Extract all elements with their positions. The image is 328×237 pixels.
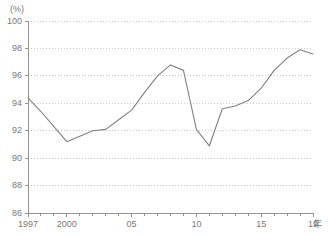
- gridlines-group: [28, 21, 313, 186]
- x-tick-marks-group: [28, 213, 313, 217]
- line-chart: (%) 86889092949698100 1997200005101519 年: [0, 0, 328, 237]
- chart-plot-area: [0, 0, 328, 237]
- data-series-group: [28, 50, 313, 146]
- y-tick-label: 100: [0, 17, 22, 26]
- x-tick-label: 2000: [47, 220, 87, 229]
- axes-group: [28, 21, 313, 213]
- y-tick-label: 96: [0, 71, 22, 80]
- x-axis-unit-label: 年: [313, 220, 322, 229]
- y-tick-label: 90: [0, 154, 22, 163]
- data-line-series-1: [28, 50, 313, 146]
- y-tick-label: 94: [0, 99, 22, 108]
- x-tick-label: 05: [112, 220, 152, 229]
- x-tick-label: 19: [293, 220, 328, 229]
- y-tick-label: 98: [0, 44, 22, 53]
- y-tick-label: 86: [0, 209, 22, 218]
- x-tick-label: 15: [241, 220, 281, 229]
- y-tick-label: 88: [0, 181, 22, 190]
- x-tick-label: 10: [176, 220, 216, 229]
- x-tick-label: 1997: [8, 220, 48, 229]
- y-tick-label: 92: [0, 126, 22, 135]
